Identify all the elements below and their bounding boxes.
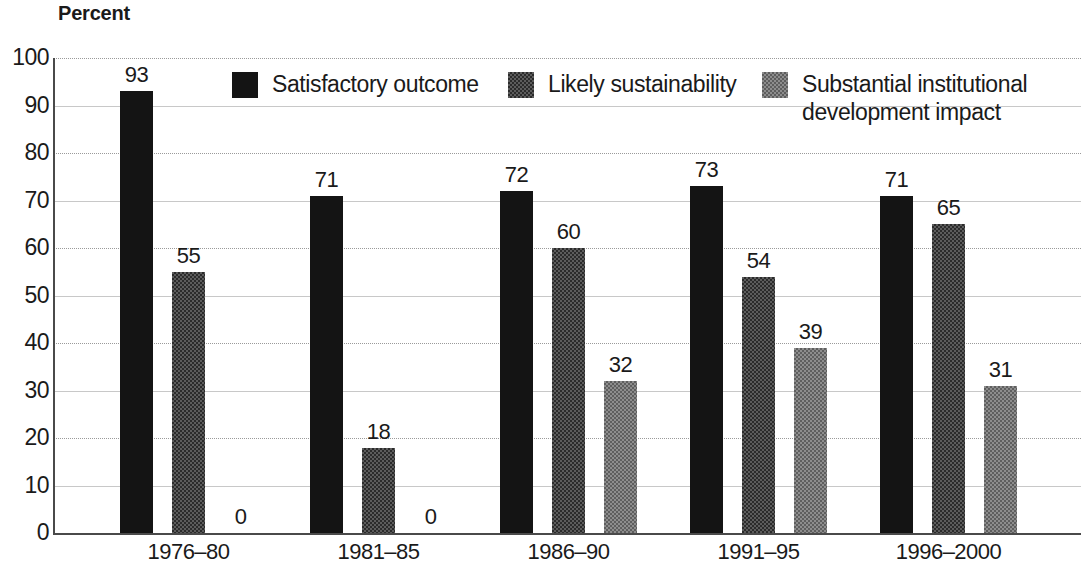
bar-chart: Percent 9355071180726032735439716531 100… (0, 0, 1081, 564)
bar-value-label: 18 (349, 421, 409, 443)
x-axis-tick-label: 1981–85 (279, 540, 479, 564)
bar-value-label: 54 (729, 250, 789, 272)
bar (362, 448, 395, 534)
y-axis-line (53, 58, 55, 534)
bar-value-label: 71 (297, 169, 357, 191)
bar (742, 277, 775, 534)
bar (794, 348, 827, 533)
bar-value-label: 32 (591, 354, 651, 376)
bar (690, 186, 723, 533)
plot-area: 9355071180726032735439716531 (53, 58, 1081, 533)
bar (310, 196, 343, 533)
x-axis-tick-label: 1991–95 (659, 540, 859, 564)
y-axis-tick-label: 90 (3, 94, 49, 117)
bar (932, 224, 965, 533)
bar-value-label: 73 (677, 159, 737, 181)
bar-value-label: 39 (781, 321, 841, 343)
bar-value-label: 31 (971, 359, 1031, 381)
bar-value-label: 55 (159, 245, 219, 267)
chart-title: Percent (58, 2, 130, 24)
y-axis-tick-label: 70 (3, 189, 49, 212)
y-axis-ticks: 1009080706050403020100 (0, 0, 49, 564)
bar-value-label: 0 (401, 506, 461, 528)
y-axis-tick-label: 0 (3, 521, 49, 544)
bar (172, 272, 205, 533)
bar-value-label: 72 (487, 164, 547, 186)
bar (552, 248, 585, 533)
y-axis-tick-label: 80 (3, 141, 49, 164)
x-axis-tick-label: 1976–80 (89, 540, 289, 564)
x-axis-line (53, 533, 1081, 535)
y-axis-tick-label: 10 (3, 474, 49, 497)
x-axis-tick-label: 1986–90 (469, 540, 669, 564)
bar-value-label: 65 (919, 197, 979, 219)
bar (604, 381, 637, 533)
y-axis-tick-label: 100 (3, 46, 49, 69)
y-axis-tick-label: 40 (3, 331, 49, 354)
bar (880, 196, 913, 533)
bar (120, 91, 153, 533)
bar (984, 386, 1017, 533)
x-axis-tick-label: 1996–2000 (849, 540, 1049, 564)
bar (500, 191, 533, 533)
y-axis-tick-label: 20 (3, 426, 49, 449)
y-axis-tick-label: 50 (3, 284, 49, 307)
bar-value-label: 93 (107, 64, 167, 86)
y-axis-tick-label: 60 (3, 236, 49, 259)
y-axis-tick-label: 30 (3, 379, 49, 402)
bar-value-label: 0 (211, 506, 271, 528)
bar-value-label: 60 (539, 221, 599, 243)
bar-value-label: 71 (867, 169, 927, 191)
